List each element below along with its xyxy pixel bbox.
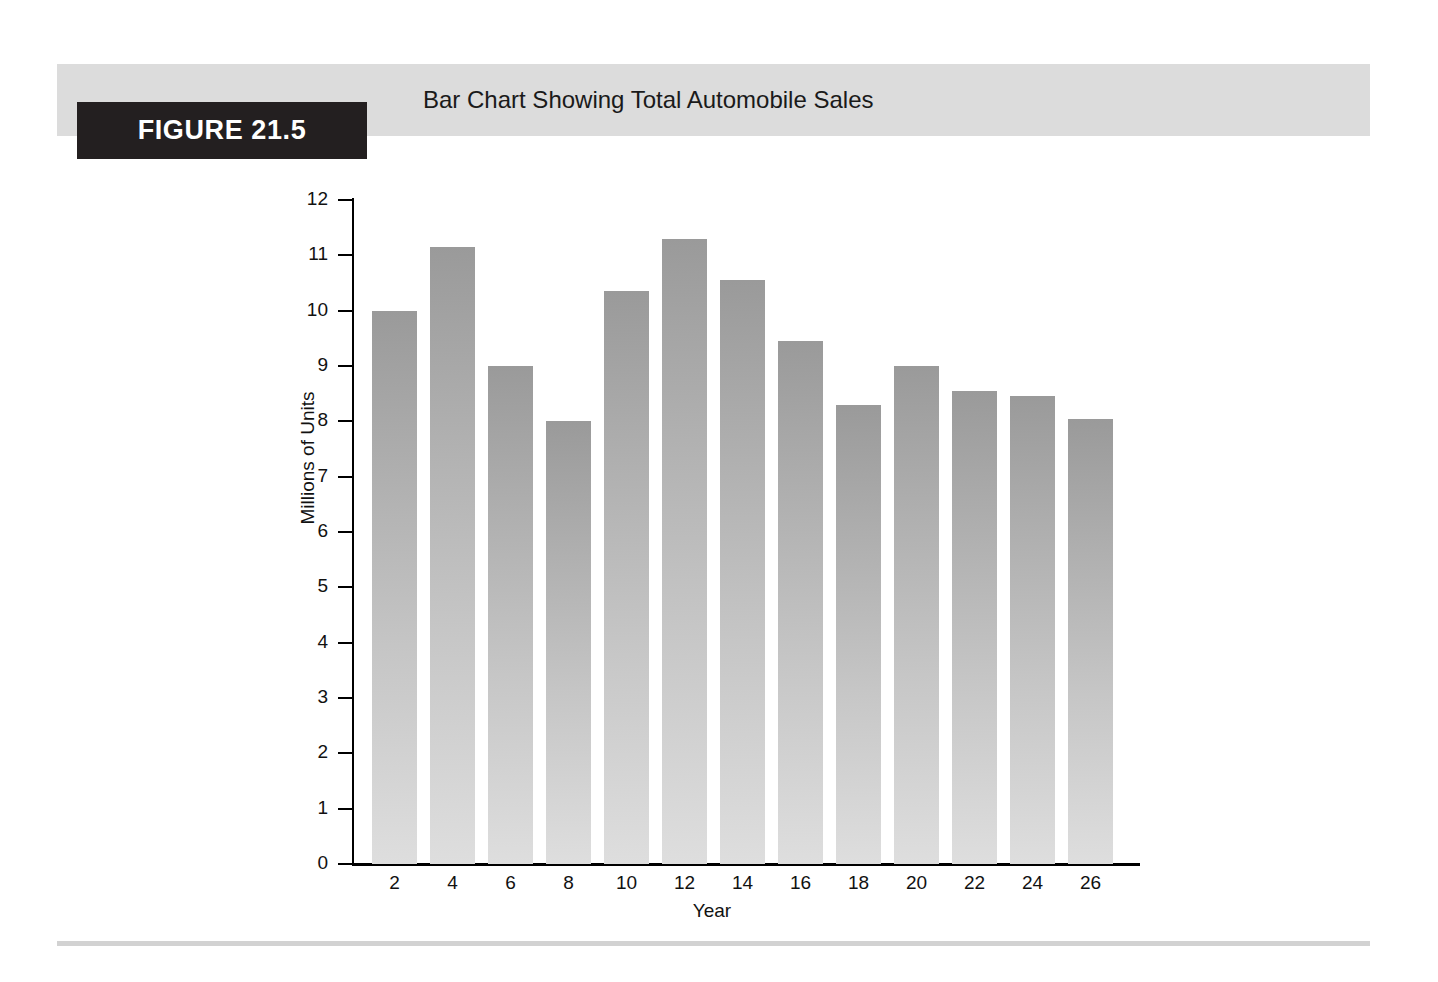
x-axis-title: Year [0,900,1438,922]
x-axis-tick-label: 10 [597,872,657,894]
bar [952,391,997,864]
footer-rule [57,941,1370,946]
y-axis-tick-label: 4 [288,631,328,653]
bar [836,405,881,864]
x-axis-tick-label: 24 [1003,872,1063,894]
y-axis-tick-label: 0 [288,852,328,874]
x-axis-tick-label: 6 [481,872,541,894]
y-axis-tick-mark [338,199,353,201]
y-axis-tick-label: 1 [288,797,328,819]
bar [430,247,475,864]
y-axis-tick-label: 12 [288,188,328,210]
x-axis-tick-label: 20 [887,872,947,894]
bar [488,366,533,864]
bar [546,421,591,864]
y-axis-tick-mark [338,420,353,422]
y-axis-tick-mark [338,808,353,810]
y-axis-tick-mark [338,642,353,644]
y-axis-tick-mark [338,365,353,367]
y-axis-tick-label: 10 [288,299,328,321]
bar [662,239,707,864]
bar [720,280,765,864]
y-axis-tick-label: 11 [288,243,328,265]
bar [1068,419,1113,864]
y-axis-tick-label: 5 [288,575,328,597]
x-axis-title-text: Year [693,900,731,921]
x-axis-tick-label: 8 [539,872,599,894]
y-axis-tick-mark [338,476,353,478]
bar [894,366,939,864]
x-axis-tick-label: 26 [1061,872,1121,894]
y-axis-tick-mark [338,863,353,865]
bar [372,311,417,864]
x-axis-tick-label: 16 [771,872,831,894]
y-axis-tick-mark [338,586,353,588]
y-axis-tick-mark [338,254,353,256]
x-axis-tick-label: 4 [423,872,483,894]
bar [604,291,649,864]
x-axis-tick-label: 12 [655,872,715,894]
y-axis-title: Millions of Units [297,368,319,548]
bar-chart: 0123456789101112 Millions of Units 24681… [0,0,1438,982]
bar [1010,396,1055,864]
x-axis-tick-label: 18 [829,872,889,894]
y-axis-tick-mark [338,752,353,754]
y-axis-tick-label: 2 [288,741,328,763]
y-axis-tick-mark [338,310,353,312]
y-axis-tick-mark [338,531,353,533]
x-axis-tick-label: 14 [713,872,773,894]
x-axis-tick-label: 22 [945,872,1005,894]
y-axis-tick-label: 3 [288,686,328,708]
y-axis-tick-mark [338,697,353,699]
x-axis-tick-label: 2 [365,872,425,894]
bar [778,341,823,864]
